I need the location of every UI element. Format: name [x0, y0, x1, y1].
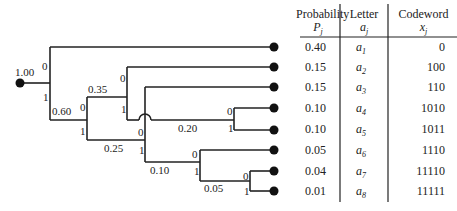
bit-label: 1: [139, 145, 145, 156]
prob-cell: 0.15: [305, 61, 326, 73]
leaf-node-icon: [270, 43, 279, 52]
prob-cell: 0.15: [305, 81, 326, 93]
node-label-005: 0.05: [204, 183, 223, 194]
leaf-node-icon: [270, 167, 279, 176]
bit-label: 1: [121, 104, 127, 115]
node-label-025: 0.25: [104, 143, 123, 154]
code-cell: 1010: [421, 102, 445, 114]
leaf-node-icon: [270, 126, 279, 135]
leaf-node-icon: [270, 63, 279, 72]
bit-label: 0: [192, 149, 198, 160]
letter-cell: a2: [356, 61, 366, 78]
letter-cell: a4: [356, 102, 366, 119]
node-label-035: 0.35: [88, 84, 107, 95]
root-node-icon: [16, 79, 25, 88]
header-letter: Letter aj: [340, 8, 388, 38]
bit-label: 1: [228, 123, 234, 134]
prob-cell: 0.10: [305, 123, 326, 135]
letter-cell: a1: [356, 41, 366, 58]
prob-cell: 0.40: [305, 41, 326, 53]
leaf-node-icon: [270, 83, 279, 92]
bit-label: 1: [43, 92, 49, 103]
bit-label: 0: [243, 171, 249, 182]
node-label-010: 0.10: [150, 165, 169, 176]
code-cell: 11110: [416, 165, 445, 177]
letter-cell: a3: [356, 81, 366, 98]
prob-cell: 0.10: [305, 102, 326, 114]
node-label-020: 0.20: [178, 123, 197, 134]
header-probability: Probability Pj: [296, 8, 340, 38]
root-label: 1.00: [15, 67, 34, 78]
bit-label: 0: [80, 102, 86, 113]
leaf-node-icon: [270, 104, 279, 113]
code-cell: 100: [427, 61, 445, 73]
bit-label: 0: [42, 61, 48, 72]
bit-label: 1: [244, 186, 250, 197]
letter-cell: a6: [356, 144, 366, 161]
code-cell: 11111: [417, 185, 445, 197]
header-codeword: Codeword xj: [390, 8, 457, 38]
bit-label: 0: [227, 106, 233, 117]
letter-cell: a8: [356, 185, 366, 202]
code-cell: 110: [427, 81, 445, 93]
code-cell: 1011: [421, 123, 445, 135]
prob-cell: 0.01: [305, 185, 326, 197]
prob-cell: 0.05: [305, 144, 326, 156]
code-cell: 0: [439, 41, 445, 53]
bit-label: 0: [138, 127, 144, 138]
code-cell: 1110: [422, 144, 445, 156]
letter-cell: a5: [356, 123, 366, 140]
bit-label: 1: [194, 166, 200, 177]
bit-label: 1: [80, 126, 86, 137]
prob-cell: 0.04: [305, 165, 326, 177]
bit-label: 0: [120, 73, 126, 84]
leaf-node-icon: [270, 187, 279, 196]
node-label-060: 0.60: [52, 106, 71, 117]
leaf-node-icon: [270, 146, 279, 155]
letter-cell: a7: [356, 165, 366, 182]
